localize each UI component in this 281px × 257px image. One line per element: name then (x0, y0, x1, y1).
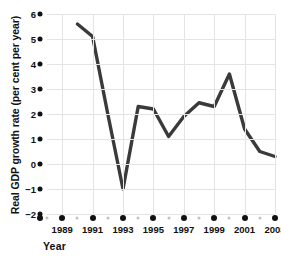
x-axis-tick-labels: 19891991199319951997199920012003 (0, 0, 281, 257)
x-axis-tick-label: 2003 (255, 224, 281, 235)
gdp-growth-line-chart: Real GDP growth rate (per cent per year)… (0, 0, 281, 257)
x-axis-title: Year (43, 240, 66, 252)
